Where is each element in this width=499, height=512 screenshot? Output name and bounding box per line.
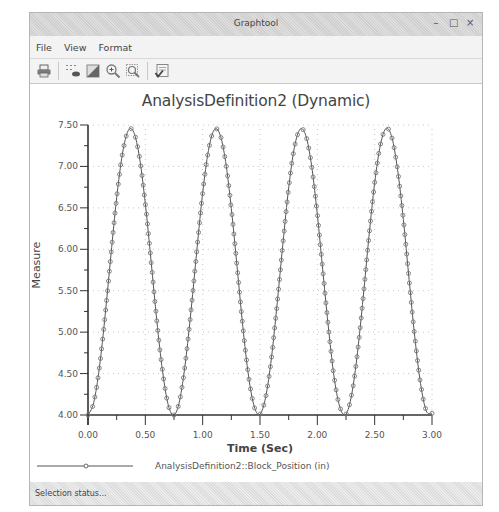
legend-label: AnalysisDefinition2::Block_Position (in) (155, 461, 329, 471)
legend-marker-icon (84, 464, 88, 468)
line-chart[interactable]: 4.004.505.005.506.006.507.007.50 0.000.5… (0, 0, 499, 512)
y-axis-ticks: 4.004.505.005.506.006.507.007.50 (58, 120, 88, 420)
y-tick-label: 6.50 (58, 203, 78, 213)
x-axis-label: Time (Sec) (227, 442, 293, 455)
x-axis-ticks: 0.000.501.001.502.002.503.00 (78, 415, 442, 440)
x-tick-label: 2.00 (307, 430, 327, 440)
x-tick-label: 0.00 (78, 430, 98, 440)
y-tick-label: 7.00 (58, 161, 78, 171)
x-tick-label: 0.50 (135, 430, 155, 440)
y-tick-label: 7.50 (58, 120, 78, 130)
grid-lines (88, 125, 432, 415)
y-tick-label: 5.00 (58, 327, 78, 337)
y-tick-label: 4.50 (58, 369, 78, 379)
x-tick-label: 3.00 (422, 430, 442, 440)
x-tick-label: 1.00 (193, 430, 213, 440)
y-tick-label: 4.00 (58, 410, 78, 420)
y-tick-label: 5.50 (58, 286, 78, 296)
x-tick-label: 1.50 (250, 430, 270, 440)
y-tick-label: 6.00 (58, 244, 78, 254)
legend: AnalysisDefinition2::Block_Position (in) (37, 461, 329, 471)
y-axis-label: Measure (30, 241, 43, 288)
x-tick-label: 2.50 (365, 430, 385, 440)
